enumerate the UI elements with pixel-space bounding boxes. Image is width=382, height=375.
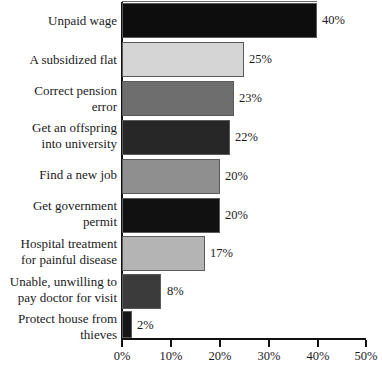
top-clipped-bar-edge [122, 0, 317, 2]
bar[interactable] [122, 159, 220, 194]
x-tick-label-5: 50% [343, 349, 382, 363]
value-label: 20% [225, 208, 248, 222]
x-tick-5 [365, 340, 367, 347]
x-tick-2 [219, 340, 221, 347]
category-label: Find a new job [0, 167, 117, 183]
bar[interactable] [122, 42, 244, 77]
x-tick-0 [121, 340, 123, 347]
bar[interactable] [122, 3, 317, 38]
value-label: 23% [239, 91, 262, 105]
bar[interactable] [122, 311, 132, 338]
bar[interactable] [122, 120, 230, 155]
category-label: Get government permit [0, 198, 117, 229]
category-label: A subsidized flat [0, 52, 117, 68]
value-label: 2% [137, 318, 154, 332]
bar[interactable] [122, 274, 161, 309]
value-label: 22% [235, 130, 258, 144]
category-label: Hospital treatment for painful disease [0, 236, 117, 267]
bar[interactable] [122, 236, 205, 271]
value-label: 40% [322, 13, 345, 27]
x-tick-label-1: 10% [148, 349, 194, 363]
category-label: Unpaid wage [0, 13, 117, 29]
value-label: 8% [167, 284, 184, 298]
x-tick-label-0: 0% [99, 349, 145, 363]
category-label: Protect house from thieves [0, 311, 117, 342]
bar[interactable] [122, 198, 220, 233]
x-tick-3 [268, 340, 270, 347]
category-label: Correct pension error [0, 83, 117, 114]
x-tick-label-2: 20% [197, 349, 243, 363]
x-tick-1 [170, 340, 172, 347]
category-label: Unable, unwilling to pay doctor for visi… [0, 274, 117, 305]
x-tick-label-3: 30% [246, 349, 292, 363]
category-label: Get an offspring into university [0, 120, 117, 151]
value-label: 17% [210, 246, 233, 260]
x-tick-label-4: 40% [295, 349, 341, 363]
x-axis-line [121, 338, 366, 340]
bar[interactable] [122, 81, 234, 116]
x-tick-4 [317, 340, 319, 347]
value-label: 20% [225, 169, 248, 183]
value-label: 25% [249, 52, 272, 66]
